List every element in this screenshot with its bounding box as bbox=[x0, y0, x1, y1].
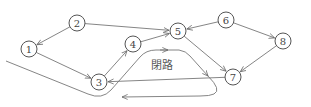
node-label: 1 bbox=[26, 44, 32, 55]
node-8: 8 bbox=[275, 33, 291, 49]
node-label: 4 bbox=[130, 39, 136, 50]
node-6: 6 bbox=[218, 12, 234, 28]
node-4: 4 bbox=[125, 36, 141, 52]
edge-7-to-3 bbox=[108, 77, 225, 81]
node-label: 6 bbox=[223, 15, 229, 26]
node-label: 7 bbox=[230, 72, 236, 83]
edge-6-to-8 bbox=[234, 23, 275, 38]
edge-1-to-3 bbox=[36, 52, 91, 78]
nodes: 12345678 bbox=[21, 12, 291, 90]
edges bbox=[36, 22, 276, 82]
edge-3-to-4 bbox=[104, 51, 127, 76]
directed-graph-diagram: 12345678 bbox=[0, 0, 311, 107]
node-label: 8 bbox=[280, 36, 286, 47]
node-7: 7 bbox=[225, 69, 241, 85]
node-2: 2 bbox=[69, 15, 85, 31]
edge-5-to-7 bbox=[184, 36, 226, 71]
edge-8-to-7 bbox=[240, 46, 276, 72]
node-label: 5 bbox=[175, 26, 181, 37]
node-1: 1 bbox=[21, 41, 37, 57]
node-label: 3 bbox=[96, 77, 102, 88]
edge-2-to-1 bbox=[37, 27, 70, 45]
edge-2-to-5 bbox=[85, 24, 169, 31]
node-3: 3 bbox=[91, 74, 107, 90]
node-5: 5 bbox=[170, 23, 186, 39]
cycle-highlight bbox=[6, 50, 217, 97]
cycle-label: 閉路 bbox=[151, 56, 173, 72]
edge-4-to-5 bbox=[141, 34, 170, 42]
edge-6-to-5 bbox=[187, 22, 218, 29]
node-label: 2 bbox=[74, 18, 80, 29]
